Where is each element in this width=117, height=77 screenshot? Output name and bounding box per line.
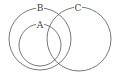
label-c: C — [75, 3, 82, 13]
venn-diagram: B A C — [0, 0, 117, 77]
label-a: A — [36, 20, 44, 30]
circle-b — [9, 8, 71, 70]
label-b: B — [37, 3, 44, 13]
circle-c — [47, 7, 111, 71]
